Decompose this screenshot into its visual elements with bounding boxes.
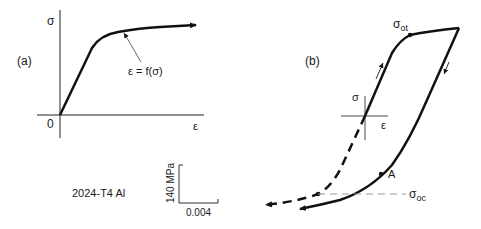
- diagram-canvas: (a) σ ε 0 ε = f(σ) 2024-T4 Al 140 MPa 0.…: [0, 0, 481, 229]
- panel-a-epsilon-label: ε: [193, 120, 198, 132]
- annotation-pointer-arrow: [124, 33, 141, 62]
- sigma-ot-point: [408, 33, 412, 37]
- panel-b-epsilon-label: ε: [381, 119, 386, 131]
- sigma-oc-label: σoc: [409, 187, 426, 203]
- scale-bar-lines: [179, 165, 218, 203]
- panel-b: (b) σ ε σot A σoc: [266, 17, 459, 209]
- panel-a-sigma-label: σ: [47, 14, 55, 28]
- panel-b-label: (b): [305, 54, 320, 68]
- panel-a: (a) σ ε 0 ε = f(σ): [17, 10, 204, 138]
- panel-a-label: (a): [17, 54, 32, 68]
- panel-b-sigma-label: σ: [352, 91, 359, 103]
- scale-bar: 140 MPa 0.004: [165, 163, 218, 218]
- material-label: 2024-T4 Al: [72, 187, 125, 199]
- point-a: [379, 172, 383, 176]
- scale-bar-stress-label: 140 MPa: [165, 163, 176, 203]
- panel-a-origin-label: 0: [47, 117, 54, 131]
- scale-bar-strain-label: 0.004: [186, 207, 211, 218]
- curve-annotation: ε = f(σ): [128, 65, 163, 77]
- point-a-label: A: [388, 168, 396, 180]
- sigma-ot-label: σot: [393, 17, 408, 33]
- unloading-direction-arrow: [444, 62, 449, 74]
- monotonic-compression-curve: [266, 116, 365, 205]
- unloading-curve: [300, 28, 459, 209]
